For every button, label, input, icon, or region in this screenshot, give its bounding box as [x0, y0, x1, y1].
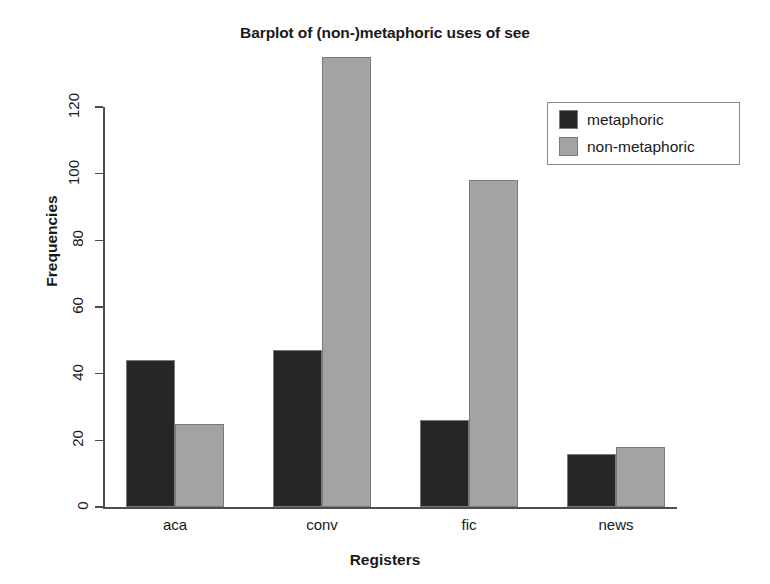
- bar-fic-metaphoric: [420, 420, 469, 507]
- bar-aca-metaphoric: [126, 360, 175, 507]
- y-axis-title: Frequencies: [43, 181, 61, 301]
- bar-conv-metaphoric: [273, 350, 322, 507]
- legend-label-non-metaphoric: non-metaphoric: [587, 138, 695, 156]
- legend-item-metaphoric: metaphoric: [559, 108, 664, 131]
- y-tick-label: 20: [0, 430, 86, 447]
- barplot-figure: Barplot of (non-)metaphoric uses of see …: [0, 0, 770, 584]
- y-tick-mark: [95, 306, 103, 308]
- y-tick-mark: [95, 240, 103, 242]
- y-tick-label: 40: [0, 364, 86, 381]
- bar-news-non-metaphoric: [616, 447, 665, 507]
- bar-conv-non-metaphoric: [322, 57, 371, 507]
- x-tick-label-fic: fic: [419, 516, 519, 533]
- y-tick-mark: [95, 506, 103, 508]
- legend-item-non-metaphoric: non-metaphoric: [559, 135, 695, 158]
- y-tick-label: 120: [0, 97, 86, 114]
- y-tick-mark: [95, 373, 103, 375]
- legend-label-metaphoric: metaphoric: [587, 111, 664, 129]
- y-tick-mark: [95, 173, 103, 175]
- x-tick-label-conv: conv: [272, 516, 372, 533]
- y-tick-mark: [95, 440, 103, 442]
- x-axis-title: Registers: [0, 551, 770, 569]
- chart-title: Barplot of (non-)metaphoric uses of see: [0, 24, 770, 42]
- bar-news-metaphoric: [567, 454, 616, 507]
- x-axis-line: [103, 507, 677, 509]
- y-tick-label: 100: [0, 164, 86, 181]
- y-tick-label: 0: [0, 497, 86, 514]
- y-tick-mark: [95, 106, 103, 108]
- bar-aca-non-metaphoric: [175, 424, 224, 507]
- legend-swatch-metaphoric: [559, 110, 578, 129]
- x-tick-label-aca: aca: [125, 516, 225, 533]
- bar-fic-non-metaphoric: [469, 180, 518, 507]
- legend-swatch-non-metaphoric: [559, 137, 578, 156]
- x-tick-label-news: news: [566, 516, 666, 533]
- legend-box: metaphoric non-metaphoric: [547, 102, 740, 165]
- y-axis-line: [103, 107, 105, 507]
